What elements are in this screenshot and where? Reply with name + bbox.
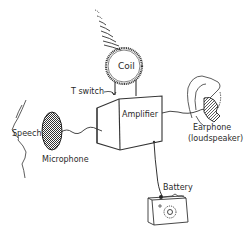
microphone-label: Microphone <box>42 156 89 164</box>
battery-wire <box>154 142 162 196</box>
microphone-icon <box>42 112 62 150</box>
hearing-aid-diagram: Coil T switch Amplifier Speech Microphon… <box>0 0 251 233</box>
amplifier-box <box>97 96 162 150</box>
earphone-icon <box>204 97 220 122</box>
earphone-wire <box>162 109 206 113</box>
signal-waves-icon <box>95 10 121 50</box>
speech-label: Speech <box>12 130 41 138</box>
earphone-sublabel: (loudspeaker) <box>188 135 243 143</box>
battery-label: Battery <box>163 184 193 192</box>
face-profile-icon <box>12 100 26 178</box>
t-switch-label: T switch <box>71 88 104 96</box>
t-switch-arrow-icon <box>104 91 116 95</box>
coil-label: Coil <box>118 62 135 71</box>
earphone-label: Earphone <box>193 124 231 132</box>
amplifier-label: Amplifier <box>122 111 158 119</box>
coil-icon <box>106 48 142 96</box>
battery-icon <box>148 194 188 225</box>
microphone-wire <box>61 127 102 133</box>
